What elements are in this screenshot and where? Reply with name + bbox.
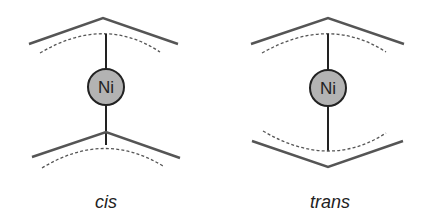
cis-top-dashed-arc: [40, 34, 160, 53]
trans-bottom-dashed-arc: [263, 131, 386, 151]
cis-trans-nickel-diagram: Ni cis Ni trans: [0, 0, 427, 224]
trans-caption: trans: [310, 192, 350, 212]
cis-top-ligand: [29, 18, 178, 44]
cis-bottom-dashed-arc: [42, 148, 163, 168]
trans-top-dashed-arc: [262, 34, 386, 53]
cis-ni-label: Ni: [98, 78, 114, 97]
cis-panel: Ni cis: [29, 18, 180, 212]
cis-caption: cis: [95, 192, 117, 212]
trans-panel: Ni trans: [251, 18, 404, 212]
trans-ni-label: Ni: [320, 79, 336, 98]
